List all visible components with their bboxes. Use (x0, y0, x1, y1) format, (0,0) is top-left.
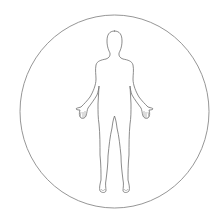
circle-frame (20, 15, 209, 208)
human-body-icon (0, 0, 220, 223)
body-outline (76, 31, 153, 193)
body-outline-figure (0, 0, 220, 223)
foot-details (101, 189, 128, 191)
